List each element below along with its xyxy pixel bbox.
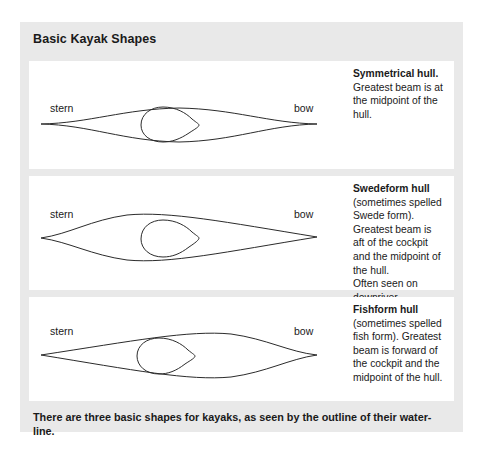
symmetrical-heading: Symmetrical hull. — [353, 68, 438, 79]
fishform-heading: Fishform hull — [353, 304, 418, 315]
swedeform-body: (sometimes spelled Swede form). Greatest… — [353, 197, 442, 276]
row-swedeform: stern bow Swedeform hull (sometimes spel… — [29, 176, 454, 290]
row-symmetrical: stern bow Symmetrical hull. Greatest bea… — [29, 61, 454, 169]
symmetrical-hull-diagram — [29, 61, 329, 169]
stern-label: stern — [50, 208, 73, 220]
stern-label: stern — [50, 102, 73, 114]
bow-label: bow — [294, 325, 313, 337]
figure-caption: There are three basic shapes for kayaks,… — [33, 410, 443, 438]
fishform-description: Fishform hull (sometimes spelled fish fo… — [341, 297, 454, 401]
stern-label: stern — [50, 325, 73, 337]
figure-panel: Basic Kayak Shapes stern bow Symmetrical… — [20, 22, 463, 432]
symmetrical-description: Symmetrical hull. Greatest beam is at th… — [341, 61, 454, 169]
fishform-hull-diagram — [29, 297, 329, 401]
swedeform-heading: Swedeform hull — [353, 183, 430, 194]
bow-label: bow — [294, 102, 313, 114]
swedeform-description: Swedeform hull (sometimes spelled Swede … — [341, 176, 454, 290]
bow-label: bow — [294, 208, 313, 220]
row-fishform: stern bow Fishform hull (sometimes spell… — [29, 297, 454, 401]
fishform-body: (sometimes spelled fish form). Greatest … — [353, 318, 442, 383]
figure-title: Basic Kayak Shapes — [33, 32, 156, 46]
symmetrical-body: Greatest beam is at the midpoint of the … — [353, 82, 443, 120]
swedeform-hull-diagram — [29, 176, 329, 290]
